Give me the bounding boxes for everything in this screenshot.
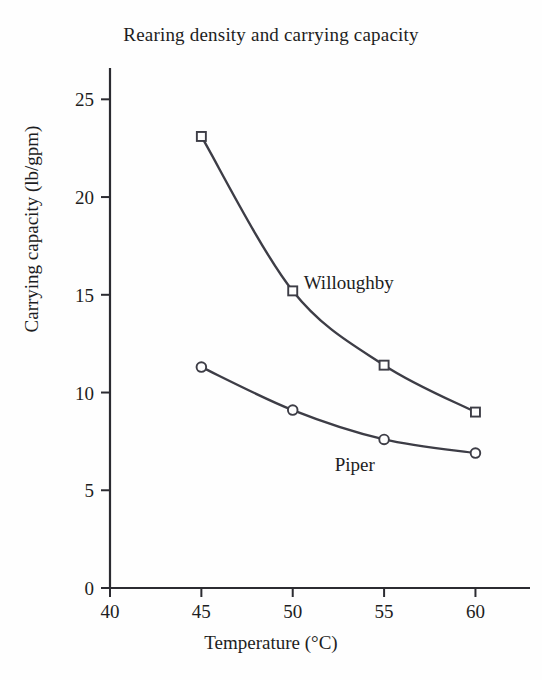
chart-plot-area: 05101520254045505560 WilloughbyPiper: [0, 0, 542, 680]
y-axis-label: Carrying capacity (lb/gpm): [21, 126, 42, 333]
x-axis-tick-label: 40: [101, 601, 120, 622]
series-annotation-label: Willoughby: [304, 272, 395, 293]
x-axis-tick-label: 60: [466, 601, 485, 622]
series-line: [201, 367, 475, 453]
data-point-marker: [288, 286, 297, 295]
axes-group: 05101520254045505560: [75, 68, 530, 622]
y-axis-tick-label: 20: [75, 187, 94, 208]
series-annotation-label: Piper: [335, 454, 376, 475]
data-point-marker: [380, 361, 389, 370]
x-axis-label: Temperature (°C): [0, 632, 542, 654]
y-axis-tick-label: 0: [85, 578, 95, 599]
y-axis-tick-label: 10: [75, 383, 94, 404]
data-point-marker: [197, 132, 206, 141]
data-point-marker: [197, 362, 207, 372]
series-group: [197, 132, 481, 458]
annotation-group: WilloughbyPiper: [304, 272, 395, 475]
data-point-marker: [471, 448, 481, 458]
y-axis-tick-label: 15: [75, 285, 94, 306]
chart-figure: Rearing density and carrying capacity 05…: [0, 0, 542, 680]
y-axis-label-wrapper: Carrying capacity (lb/gpm): [21, 79, 43, 379]
y-axis-tick-label: 25: [75, 89, 94, 110]
data-point-marker: [288, 405, 298, 415]
series-piper: [197, 362, 481, 458]
x-axis-tick-label: 55: [375, 601, 394, 622]
x-axis-tick-label: 50: [283, 601, 302, 622]
x-axis-tick-label: 45: [192, 601, 211, 622]
y-axis-tick-label: 5: [85, 480, 95, 501]
data-point-marker: [379, 435, 389, 445]
data-point-marker: [471, 408, 480, 417]
